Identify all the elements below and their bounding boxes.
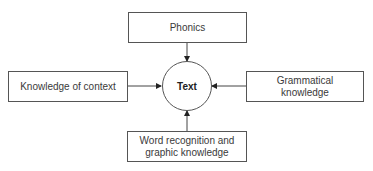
phonics-box: Phonics xyxy=(128,12,247,43)
text-label: Text xyxy=(177,81,197,92)
grammatical-knowledge-label: Grammatical knowledge xyxy=(269,75,341,99)
grammatical-knowledge-box: Grammatical knowledge xyxy=(246,71,364,102)
text-circle: Text xyxy=(162,61,212,111)
phonics-label: Phonics xyxy=(170,22,206,34)
knowledge-of-context-label: Knowledge of context xyxy=(20,81,116,93)
word-recognition-label: Word recognition and graphic knowledge xyxy=(134,135,240,159)
word-recognition-box: Word recognition and graphic knowledge xyxy=(127,131,247,162)
knowledge-of-context-box: Knowledge of context xyxy=(8,71,128,102)
